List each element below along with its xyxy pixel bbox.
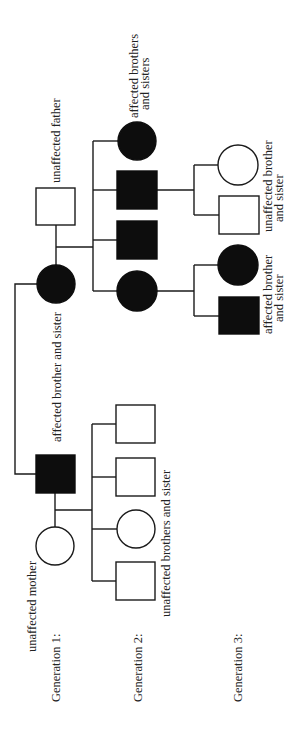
g3-unaffected-son-square bbox=[219, 196, 259, 234]
g2-unaffected-son-square-3 bbox=[116, 562, 155, 600]
generation-2 bbox=[116, 122, 157, 600]
label-generation-1: Generation 1: bbox=[49, 634, 63, 702]
label-unaffected-father: unaffected father bbox=[49, 97, 63, 183]
label-generation-3: Generation 3: bbox=[231, 634, 245, 702]
labels: unaffected mother unaffected father affe… bbox=[25, 34, 286, 702]
label-g2-affected-siblings-line2: and sisters bbox=[138, 57, 152, 110]
g2-affected-daughter-circle-1 bbox=[118, 122, 156, 160]
label-g3-unaffected-line2: and sister bbox=[272, 174, 286, 222]
g3-affected-son-square bbox=[219, 297, 259, 334]
label-g1-affected-siblings: affected brother and sister bbox=[50, 311, 64, 442]
label-g3-affected-line2: and sister bbox=[272, 274, 286, 322]
label-generation-2: Generation 2: bbox=[131, 634, 145, 702]
label-g2-unaffected-siblings: unaffected brothers and sister bbox=[159, 469, 173, 617]
g3-unaffected-daughter-circle bbox=[218, 145, 258, 185]
pedigree-svg: unaffected mother unaffected father affe… bbox=[0, 0, 288, 734]
generation-3 bbox=[218, 145, 259, 334]
g3-affected-daughter-circle bbox=[218, 245, 258, 285]
label-unaffected-mother: unaffected mother bbox=[25, 560, 39, 652]
g2-affected-daughter-circle-2 bbox=[117, 271, 157, 311]
g2-unaffected-son-square-2 bbox=[116, 458, 155, 496]
unaffected-father-square bbox=[36, 188, 75, 225]
affected-male-square bbox=[36, 455, 75, 493]
g2-unaffected-son-square-1 bbox=[116, 405, 155, 443]
pedigree-diagram: unaffected mother unaffected father affe… bbox=[0, 0, 288, 734]
unaffected-mother-circle bbox=[36, 527, 74, 565]
g1-sibling-link-line bbox=[15, 284, 37, 474]
g2-unaffected-daughter-circle bbox=[117, 510, 155, 548]
affected-female-circle bbox=[37, 265, 75, 303]
g2-affected-son-square-1 bbox=[117, 171, 157, 209]
g2-affected-son-square-2 bbox=[117, 221, 157, 259]
